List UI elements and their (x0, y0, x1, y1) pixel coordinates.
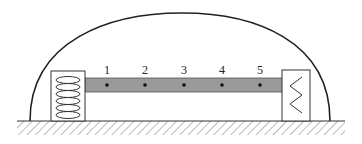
point-label: 4 (219, 63, 225, 77)
point-label: 2 (142, 63, 148, 77)
point-label: 3 (181, 63, 187, 77)
ground (17, 121, 345, 135)
point-label: 5 (257, 63, 263, 77)
right-spring-box (282, 70, 310, 121)
diagram-canvas: 1 2 3 4 5 (0, 0, 362, 144)
point-label: 1 (104, 63, 110, 77)
left-spring-box (51, 71, 85, 121)
